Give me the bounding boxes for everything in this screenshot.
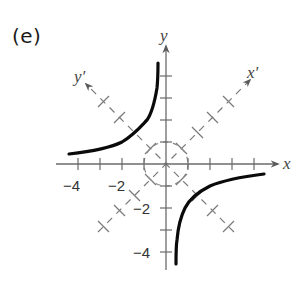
main-axes xyxy=(56,46,278,270)
y-prime-axis xyxy=(86,84,234,232)
y-tick-label-neg2: −2 xyxy=(133,200,150,217)
hyperbola-plot: x y x′ y′ −4 −2 −2 −4 xyxy=(0,0,304,285)
rotated-axes xyxy=(86,80,250,232)
hyperbola-right-branch xyxy=(176,174,264,264)
x-prime-axis xyxy=(98,80,250,232)
x-tick-label-neg2: −2 xyxy=(108,177,125,194)
y-prime-label: y′ xyxy=(72,67,86,86)
x-axis-label: x xyxy=(282,154,291,173)
y-axis-label: y xyxy=(158,26,168,45)
x-prime-label: x′ xyxy=(246,63,259,82)
y-tick-label-neg4: −4 xyxy=(133,244,150,261)
x-tick-label-neg4: −4 xyxy=(63,177,80,194)
